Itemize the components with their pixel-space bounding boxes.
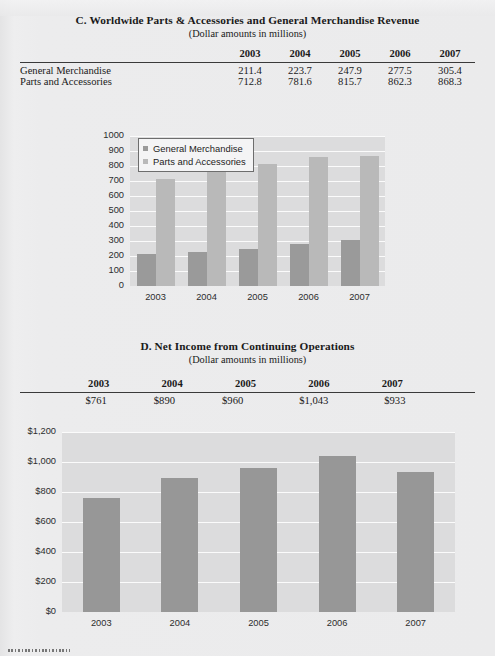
bar-2007-s0 (341, 240, 360, 286)
legend-item: Parts and Accessories (143, 155, 246, 168)
bar-2004-s1 (207, 169, 226, 286)
cell-parts-2005: 815.7 (325, 76, 375, 87)
gridline (62, 432, 455, 433)
section-d-table: 2003 2004 2005 2006 2007 $761 $890 $960 … (20, 378, 475, 406)
bar-2005-s1 (258, 164, 277, 286)
col-year-3: 2006 (375, 48, 425, 59)
y-axis-label: 800 (94, 160, 124, 170)
x-axis-label: 2007 (376, 618, 455, 628)
bar-2007-s1 (360, 156, 379, 286)
section-d-header: D. Net Income from Continuing Operations… (0, 340, 495, 365)
chart-net-income: $1,200$1,000$800$600$400$200$02003200420… (62, 432, 455, 634)
col-year-1: 2004 (275, 48, 325, 59)
d-col-year-2: 2005 (209, 378, 282, 389)
cell-parts-2006: 862.3 (375, 76, 425, 87)
cell-merch-2003: 211.4 (225, 65, 275, 76)
legend-label: Parts and Accessories (153, 155, 246, 168)
bar-2005-s0 (239, 249, 258, 286)
y-axis-label: $200 (14, 576, 56, 586)
y-axis-label: $400 (14, 546, 56, 556)
cell-merch-2004: 223.7 (275, 65, 325, 76)
table-rule (20, 62, 475, 63)
bar-2006-s0 (290, 244, 309, 286)
section-c-title: C. Worldwide Parts & Accessories and Gen… (0, 14, 495, 26)
y-axis-label: 200 (94, 250, 124, 260)
y-axis-label: 0 (94, 280, 124, 290)
chart-parts-merchandise: 1000900800700600500400300200100020032004… (130, 136, 385, 308)
col-year-4: 2007 (425, 48, 475, 59)
bar-2005 (240, 468, 277, 612)
row-label-merchandise: General Merchandise (20, 65, 225, 76)
x-axis-label: 2003 (130, 292, 181, 302)
d-col-year-0: 2003 (62, 378, 135, 389)
y-axis-label: 600 (94, 190, 124, 200)
plot-area (62, 432, 455, 612)
legend-label: General Merchandise (153, 142, 243, 155)
section-d-title: D. Net Income from Continuing Operations (0, 340, 495, 352)
y-axis-label: $600 (14, 516, 56, 526)
section-d-subtitle: (Dollar amounts in millions) (0, 354, 495, 365)
d-col-year-3: 2006 (282, 378, 355, 389)
legend-item: General Merchandise (143, 142, 246, 155)
d-col-year-1: 2004 (135, 378, 208, 389)
y-axis-label: $1,000 (14, 456, 56, 466)
cell-netincome-2006: $1,043 (267, 395, 361, 406)
legend-swatch (143, 159, 148, 164)
cell-parts-2007: 868.3 (425, 76, 475, 87)
cell-netincome-2004: $890 (130, 395, 198, 406)
section-c-table: 2003 2004 2005 2006 2007 General Merchan… (20, 48, 475, 87)
x-axis-label: 2004 (181, 292, 232, 302)
cell-merch-2007: 305.4 (425, 65, 475, 76)
table-header-row: 2003 2004 2005 2006 2007 (20, 378, 475, 389)
section-c-header: C. Worldwide Parts & Accessories and Gen… (0, 14, 495, 39)
x-axis-label: 2004 (141, 618, 220, 628)
y-axis-label: 1000 (94, 130, 124, 140)
cell-parts-2003: 712.8 (225, 76, 275, 87)
table-row: Parts and Accessories 712.8 781.6 815.7 … (20, 76, 475, 87)
col-year-2: 2005 (325, 48, 375, 59)
section-c-subtitle: (Dollar amounts in millions) (0, 28, 495, 39)
document-page: C. Worldwide Parts & Accessories and Gen… (0, 0, 495, 656)
cell-netincome-2005: $960 (199, 395, 267, 406)
x-axis-label: 2003 (62, 618, 141, 628)
y-axis-label: $0 (14, 606, 56, 616)
d-col-year-4: 2007 (356, 378, 429, 389)
cell-parts-2004: 781.6 (275, 76, 325, 87)
gridline (62, 462, 455, 463)
bar-2003 (83, 498, 120, 612)
y-axis-label: 900 (94, 145, 124, 155)
x-axis-label: 2005 (232, 292, 283, 302)
table-row: General Merchandise 211.4 223.7 247.9 27… (20, 65, 475, 76)
y-axis-label: 400 (94, 220, 124, 230)
bar-2006 (319, 456, 356, 612)
bar-2003-s1 (156, 179, 175, 286)
bar-2004 (161, 478, 198, 612)
y-axis-label: 300 (94, 235, 124, 245)
cell-netincome-2007: $933 (361, 395, 429, 406)
bar-2003-s0 (137, 254, 156, 286)
scan-artifact-dots (8, 649, 70, 652)
x-axis-label: 2007 (334, 292, 385, 302)
legend-swatch (143, 146, 148, 151)
chart-legend: General MerchandiseParts and Accessories (138, 138, 254, 172)
bar-2004-s0 (188, 252, 207, 286)
x-axis-label: 2006 (283, 292, 334, 302)
y-axis-label: $1,200 (14, 426, 56, 436)
cell-merch-2006: 277.5 (375, 65, 425, 76)
y-axis-label: 100 (94, 265, 124, 275)
bar-2007 (397, 472, 434, 612)
col-year-0: 2003 (225, 48, 275, 59)
table-row: $761 $890 $960 $1,043 $933 (20, 395, 475, 406)
y-axis-label: 500 (94, 205, 124, 215)
table-rule (20, 392, 475, 393)
row-label-parts: Parts and Accessories (20, 76, 225, 87)
cell-merch-2005: 247.9 (325, 65, 375, 76)
y-axis-label: 700 (94, 175, 124, 185)
gridline (130, 136, 385, 137)
bar-2006-s1 (309, 157, 328, 286)
cell-netincome-2003: $761 (62, 395, 130, 406)
x-axis-label: 2006 (298, 618, 377, 628)
y-axis-label: $800 (14, 486, 56, 496)
x-axis-label: 2005 (219, 618, 298, 628)
table-header-row: 2003 2004 2005 2006 2007 (20, 48, 475, 59)
